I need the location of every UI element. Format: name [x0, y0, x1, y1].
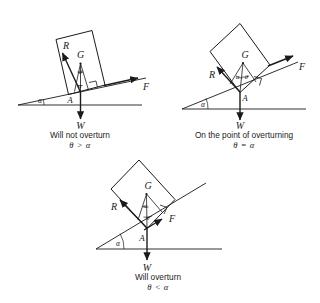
slope-angle-label: α [116, 239, 121, 248]
diagram-will-not-overturn: α R G θ α A W F [0, 8, 160, 130]
block-outline [111, 160, 175, 229]
centre-of-gravity-label: G [241, 49, 248, 60]
reaction-force-label: R [110, 201, 117, 212]
vertical-through-g-line [147, 194, 148, 228]
caption-text-1: Will not overturn [50, 130, 110, 140]
on-the-point-of-overturning-svg: α R G α θ A W F [172, 8, 320, 130]
centre-of-gravity-label: G [77, 49, 84, 60]
alpha-angle-label-at-g: α [143, 202, 147, 209]
will-not-overturn-svg: α R G θ α A W F [0, 8, 160, 130]
contact-point-label: A [138, 233, 145, 243]
reaction-force-label: R [62, 40, 69, 51]
incline-surface-line [96, 183, 206, 249]
slope-angle-label: α [38, 96, 43, 105]
reaction-force-label: R [208, 69, 215, 80]
caption-text-3: Will overturn [135, 272, 181, 282]
slope-angle-arc [120, 234, 124, 250]
friction-force-label: F [168, 213, 176, 224]
friction-force-vector [268, 56, 293, 66]
friction-force-label: F [142, 81, 150, 92]
caption-condition-3: θ < α [72, 282, 244, 292]
alpha-angle-label-at-g: α [78, 82, 82, 89]
slope-angle-arc [43, 99, 44, 105]
weight-force-label: W [236, 120, 246, 130]
caption-will-overturn: Will overturn θ < α [72, 272, 244, 292]
will-overturn-svg: α R G α θ A W F [82, 148, 238, 272]
block-edge-construction-line [147, 194, 163, 212]
caption-will-not-overturn: Will not overturn θ > α [0, 130, 160, 150]
contact-point-label: A [241, 93, 248, 103]
weight-force-label: W [76, 120, 86, 130]
slope-angle-arc [206, 98, 208, 109]
centre-of-gravity-label: G [144, 180, 151, 191]
weight-force-label: W [143, 262, 153, 272]
slope-angle-label: α [201, 100, 206, 109]
friction-force-label: F [298, 61, 306, 72]
right-angle-mark [89, 81, 98, 88]
alpha-angle-label-at-g: α [236, 73, 240, 80]
caption-text-2: On the point of overturning [195, 130, 293, 140]
diagram-will-overturn: α R G α θ A W F [82, 148, 238, 272]
friction-force-vector [104, 78, 138, 86]
block-outline [210, 24, 270, 93]
diagram-on-the-point-of-overturning: α R G α θ A W F [172, 8, 320, 130]
caption-on-the-point-of-overturning: On the point of overturning θ = α [168, 130, 320, 150]
contact-point-label: A [66, 95, 73, 105]
